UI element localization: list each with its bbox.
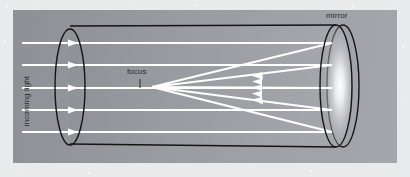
mirror-label: mirror	[326, 12, 347, 20]
reflected-ray	[152, 87, 332, 88]
focus-label: focus	[127, 68, 147, 76]
ray-diagram-svg	[0, 0, 410, 177]
incoming-light-label: incoming light	[23, 61, 31, 141]
telescope-diagram-figure: mirror focus incoming light	[0, 0, 410, 177]
